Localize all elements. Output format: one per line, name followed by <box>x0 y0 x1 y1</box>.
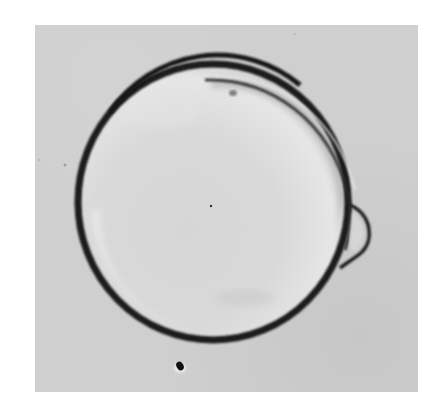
cell-micrograph <box>0 0 439 407</box>
background-speck <box>64 164 67 167</box>
bulge-interior <box>349 212 363 251</box>
interior-dot <box>210 205 212 207</box>
background-speck <box>294 33 296 35</box>
top-speck <box>229 90 237 96</box>
debris-particle <box>174 360 186 373</box>
background-speck <box>38 159 40 161</box>
